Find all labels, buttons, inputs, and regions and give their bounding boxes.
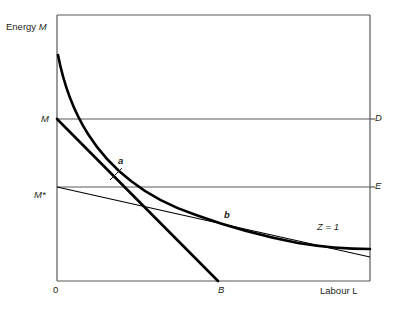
energy-labour-isoquant-figure: Energy M Labour L 0 B M M* D E a b Z = 1 <box>0 0 399 310</box>
isoquant-curve-Z1 <box>58 55 370 249</box>
plot-frame <box>57 15 370 281</box>
chart-canvas <box>0 0 399 310</box>
point-label-a: a <box>118 156 123 166</box>
point-label-b: b <box>224 210 230 220</box>
y-axis-label-symbol: M <box>39 21 47 32</box>
x-tick-label-B: B <box>218 285 224 295</box>
y-axis-label: Energy M <box>6 22 47 32</box>
budget-line-MB <box>57 119 218 281</box>
y-tick-label-M-star: M* <box>34 190 46 200</box>
y-tick-label-M: M <box>41 114 49 124</box>
horizontal-reference-lines <box>57 119 375 187</box>
origin-label: 0 <box>53 285 58 295</box>
curve-label-z: Z = 1 <box>317 222 339 232</box>
line-label-D: D <box>375 113 382 123</box>
x-axis-label: Labour L <box>320 286 358 296</box>
line-label-E: E <box>375 181 381 191</box>
